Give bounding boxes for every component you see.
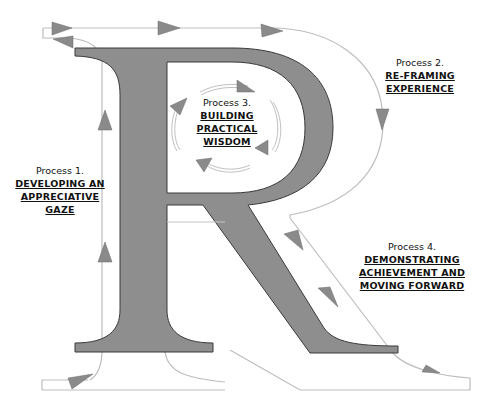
- process-4-label: Process 4. DEMONSTRATING ACHIEVEMENT AND…: [348, 240, 476, 292]
- process-3-label: Process 3. BUILDING PRACTICAL WISDOM: [186, 96, 268, 148]
- letter-r: [75, 48, 398, 353]
- process-2-name-line-1: RE-FRAMING: [370, 69, 470, 82]
- arrow-leg-1-icon: [284, 230, 303, 250]
- cycle-arrow-bottom-icon: [196, 158, 212, 172]
- process-4-name-line-2: ACHIEVEMENT AND: [348, 266, 476, 279]
- process-4-title: Process 4.: [348, 240, 476, 253]
- process-4-name-line-3: MOVING FORWARD: [348, 279, 476, 292]
- process-1-name-line-2: APPRECIATIVE: [12, 190, 108, 203]
- arrow-bottom-left-icon: [68, 374, 93, 389]
- process-1-title: Process 1.: [12, 164, 108, 177]
- cycle-arrow-top-icon: [237, 80, 255, 92]
- process-3-title: Process 3.: [186, 96, 268, 109]
- arrow-process2-down-icon: [376, 109, 389, 130]
- process-1-name-line-1: DEVELOPING AN: [12, 177, 108, 190]
- arrow-leg-2-icon: [318, 287, 338, 307]
- process-3-name-line-2: PRACTICAL: [186, 122, 268, 135]
- process-3-name-line-1: BUILDING: [186, 109, 268, 122]
- cycle-arrow-left-icon: [170, 98, 187, 115]
- arrow-top-2-icon: [158, 21, 180, 35]
- process-1-name-line-3: GAZE: [12, 203, 108, 216]
- process-4-name-line-1: DEMONSTRATING: [348, 253, 476, 266]
- arrow-bottom-right-icon: [422, 365, 440, 373]
- arrow-left-up-1-icon: [98, 242, 112, 262]
- arrow-top-1-icon: [52, 22, 72, 35]
- arrow-left-up-2-icon: [98, 110, 112, 130]
- process-2-label: Process 2. RE-FRAMING EXPERIENCE: [370, 56, 470, 95]
- process-3-name-line-3: WISDOM: [186, 135, 268, 148]
- arrow-top-3-icon: [261, 24, 283, 37]
- process-2-name-line-2: EXPERIENCE: [370, 82, 470, 95]
- process-2-title: Process 2.: [370, 56, 470, 69]
- process-1-label: Process 1. DEVELOPING AN APPRECIATIVE GA…: [12, 164, 108, 216]
